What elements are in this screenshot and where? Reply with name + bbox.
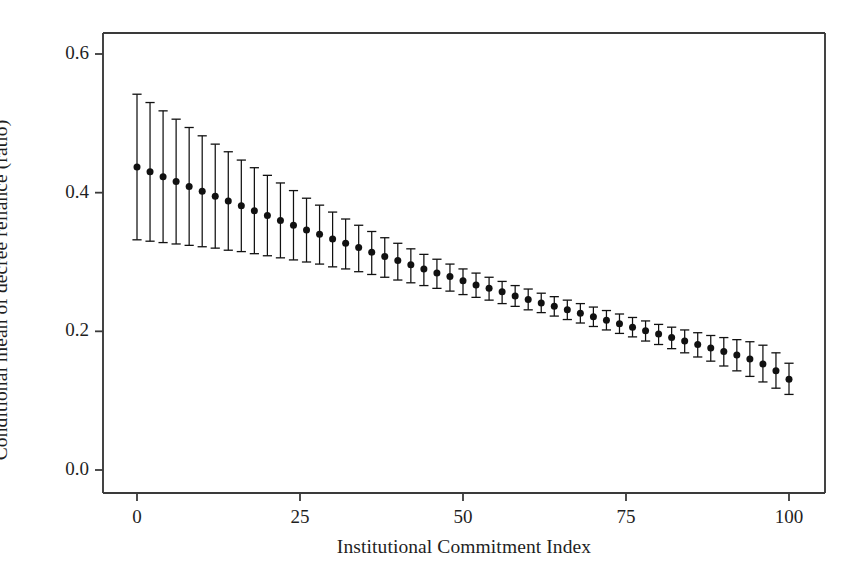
data-point-marker [577, 310, 584, 317]
data-point-marker [786, 376, 793, 383]
data-point-marker [525, 296, 532, 303]
data-point-marker [394, 257, 401, 264]
data-point-marker [642, 327, 649, 334]
data-point-marker [407, 261, 414, 268]
data-point-marker [316, 231, 323, 238]
data-point-marker [473, 281, 480, 288]
data-point-marker [290, 222, 297, 229]
data-point-marker [603, 317, 610, 324]
data-point-marker [668, 334, 675, 341]
data-point-marker [720, 348, 727, 355]
data-point-marker [303, 227, 310, 234]
data-point-marker [694, 341, 701, 348]
data-point-marker [433, 270, 440, 277]
data-point-marker [746, 356, 753, 363]
data-point-marker [733, 351, 740, 358]
data-point-marker [277, 217, 284, 224]
data-point-marker [212, 193, 219, 200]
data-point-marker [147, 168, 154, 175]
data-point-marker [381, 253, 388, 260]
data-point-marker [512, 292, 519, 299]
data-point-marker [134, 164, 141, 171]
data-point-marker [186, 183, 193, 190]
data-point-marker [655, 331, 662, 338]
data-point-marker [225, 197, 232, 204]
chart-figure: Conditional mean of decree reliance (rat… [0, 0, 852, 580]
data-point-marker [420, 265, 427, 272]
data-point-marker [160, 173, 167, 180]
data-point-marker [199, 188, 206, 195]
data-point-marker [446, 273, 453, 280]
data-point-marker [355, 244, 362, 251]
data-point-marker [538, 299, 545, 306]
data-point-marker [251, 207, 258, 214]
data-point-marker [486, 285, 493, 292]
data-point-marker [681, 338, 688, 345]
data-point-marker [499, 288, 506, 295]
chart-plot-area [0, 0, 852, 580]
data-point-marker [759, 360, 766, 367]
data-point-marker [460, 277, 467, 284]
data-point-marker [564, 306, 571, 313]
data-point-marker [342, 240, 349, 247]
data-point-marker [238, 202, 245, 209]
data-point-marker [264, 212, 271, 219]
data-point-marker [629, 324, 636, 331]
data-point-marker [173, 178, 180, 185]
data-point-marker [616, 320, 623, 327]
data-point-marker [368, 249, 375, 256]
data-point-marker [707, 344, 714, 351]
data-point-marker [772, 367, 779, 374]
data-point-marker [551, 303, 558, 310]
data-point-marker [329, 236, 336, 243]
data-point-marker [590, 313, 597, 320]
